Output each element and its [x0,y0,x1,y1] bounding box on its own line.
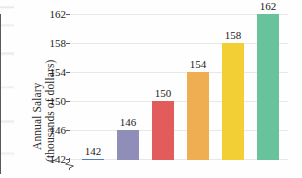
bar-5[interactable] [222,43,244,160]
ytick-label-162: 162 [40,8,66,20]
scan-artifact-edge [0,0,14,178]
bar-value-label-1: 142 [73,145,113,157]
bars-layer: 142 146 150 154 158 162 [70,14,288,160]
ytick-label-150: 150 [40,95,66,107]
bar-6[interactable] [257,14,279,160]
bar-value-label-3: 150 [143,87,183,99]
ytick-label-158: 158 [40,37,66,49]
bar-value-label-4: 154 [178,58,218,70]
y-axis-title: Annual Salary (thousands of dollars) [18,0,48,178]
bar-1[interactable] [82,159,104,160]
bar-4[interactable] [187,72,209,160]
bar-value-label-5: 158 [213,29,253,41]
ytick-label-154: 154 [40,66,66,78]
ytick-label-146: 146 [40,124,66,136]
y-axis-title-line1: Annual Salary [31,83,43,150]
bar-value-label-6: 162 [248,0,288,12]
bar-2[interactable] [117,130,139,160]
bar-value-label-2: 146 [108,116,148,128]
bar-chart: Annual Salary (thousands of dollars) 162… [0,0,302,178]
bar-3[interactable] [152,101,174,160]
y-axis-line [0,14,1,174]
ytick-label-142: 142 [40,153,66,165]
